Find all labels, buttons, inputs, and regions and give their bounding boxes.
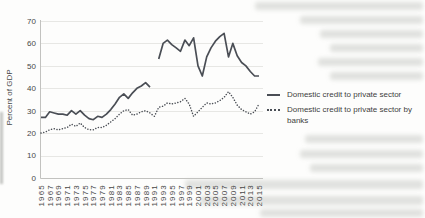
x-tick-label: 1973	[72, 184, 81, 207]
legend-item-private-sector: Domestic credit to private sector	[267, 90, 419, 100]
y-axis-title: Percent of GDP	[5, 63, 14, 133]
x-tick-label: 2001	[194, 184, 203, 207]
x-tick-label: 2005	[211, 184, 220, 207]
x-tick-label: 1985	[124, 184, 133, 207]
x-tick-label: 1989	[142, 184, 151, 207]
x-axis-ticks: 1965196719691971197319751977197919811983…	[37, 184, 264, 207]
y-tick-label: 70	[27, 17, 36, 26]
x-tick-label: 1987	[133, 184, 142, 207]
legend-item-private-sector-banks: Domestic credit to private sector by ban…	[267, 105, 419, 126]
x-tick-label: 1969	[54, 184, 63, 207]
y-tick-label: 40	[27, 84, 36, 93]
x-tick-label: 1999	[185, 184, 194, 207]
x-tick-label: 1971	[63, 184, 72, 207]
x-tick-label: 2013	[246, 184, 255, 207]
legend-label: Domestic credit to private sector	[287, 90, 401, 100]
x-tick-label: 2011	[238, 184, 247, 206]
scanned-chart-page: 0102030405060701965196719691971197319751…	[0, 0, 425, 218]
y-tick-label: 50	[27, 62, 36, 71]
y-axis-ticks: 010203040506070	[27, 17, 36, 183]
y-tick-label: 30	[27, 107, 36, 116]
x-tick-label: 1965	[37, 184, 46, 207]
y-tick-label: 20	[27, 129, 36, 138]
x-tick-label: 1991	[150, 184, 159, 207]
x-tick-label: 1977	[89, 184, 98, 207]
x-tick-label: 1993	[159, 184, 168, 207]
gridlines	[40, 22, 263, 157]
series-line-solid	[41, 33, 259, 119]
x-tick-label: 2007	[220, 184, 229, 207]
x-tick-label: 1979	[98, 184, 107, 207]
y-tick-label: 60	[27, 39, 36, 48]
x-tick-label: 1967	[46, 184, 55, 207]
x-tick-label: 2009	[229, 184, 238, 207]
x-tick-label: 1997	[177, 184, 186, 207]
x-tick-label: 2015	[255, 184, 264, 207]
x-tick-label: 1975	[81, 184, 90, 207]
y-tick-label: 0	[32, 174, 37, 183]
x-tick-label: 1981	[107, 184, 116, 207]
chart-legend: Domestic credit to private sector Domest…	[267, 90, 419, 126]
solid-line-swatch-icon	[267, 94, 280, 96]
x-tick-label: 2003	[203, 184, 212, 207]
x-tick-label: 1995	[168, 184, 177, 207]
dotted-line-swatch-icon	[267, 109, 280, 111]
x-tick-label: 1983	[115, 184, 124, 207]
y-tick-label: 10	[27, 151, 36, 160]
legend-label: Domestic credit to private sector by ban…	[287, 105, 419, 126]
